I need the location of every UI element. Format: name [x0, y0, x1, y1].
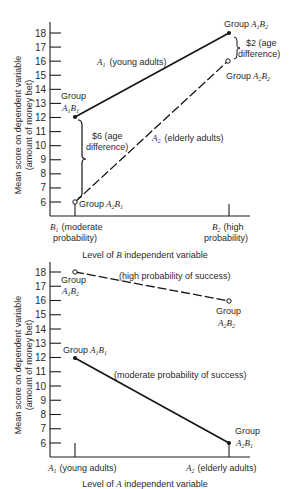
- y-tick-label: 14: [35, 84, 47, 95]
- bottom-x-axis-label: Level of A independent variable: [82, 479, 208, 489]
- label-diff6-line1: $6 (age: [92, 131, 123, 141]
- top-y-axis-label: Mean score on dependent variable (amount…: [13, 56, 34, 195]
- figure: Mean score on dependent variable (amount…: [0, 0, 291, 489]
- y-tick-label: 8: [40, 409, 46, 420]
- label-group-a1b2: Group A1B2: [224, 19, 268, 30]
- label-diff2-line1: $2 (age: [246, 38, 277, 48]
- label-cat-a2: A2(elderly adults): [185, 463, 257, 474]
- label-high-probability: (high probability of success): [119, 271, 231, 281]
- label-series-a1: A1(young adults): [96, 57, 167, 68]
- bottom-point-a1b1: [73, 356, 77, 360]
- top-point-a1b2: [227, 31, 231, 35]
- y-tick-label: 9: [40, 154, 46, 165]
- bottom-point-a2b1: [227, 441, 231, 445]
- label-b-group-a2b1-word: Group: [235, 426, 260, 436]
- label-diff6-line2: difference): [86, 142, 128, 152]
- svg-text:(amount of money bet): (amount of money bet): [24, 320, 34, 411]
- y-tick-label: 17: [35, 42, 47, 53]
- label-group-a1b1: A1B1: [61, 103, 79, 114]
- label-cat-b2-line2: probability): [204, 233, 248, 243]
- label-cat-b1: B1(moderate: [50, 222, 103, 233]
- bottom-point-a1b2: [73, 270, 77, 274]
- label-b-group-a2b1: A2B1: [235, 438, 253, 449]
- label-series-a2: A2(elderly adults): [151, 133, 224, 144]
- label-cat-a1: A1(young adults): [47, 463, 117, 474]
- y-tick-label: 12: [35, 112, 47, 123]
- top-line-a1: [75, 33, 229, 117]
- label-b-group-a1b1: Group A1B1: [63, 345, 107, 356]
- y-tick-label: 9: [40, 395, 46, 406]
- bottom-y-ticks: 6789101112131415161718: [35, 267, 61, 449]
- y-tick-label: 13: [35, 338, 47, 349]
- y-tick-label: 14: [35, 324, 47, 335]
- y-tick-label: 8: [40, 168, 46, 179]
- bottom-point-a2b2: [227, 299, 231, 303]
- label-cat-b1-line2: probability): [53, 233, 97, 243]
- y-tick-label: 13: [35, 98, 47, 109]
- top-chart: Mean score on dependent variable (amount…: [13, 19, 280, 260]
- label-b-group-a2b2: A2B2: [217, 318, 235, 329]
- label-diff2-line2: difference): [238, 49, 280, 59]
- y-tick-label: 11: [36, 366, 47, 377]
- svg-text:(amount of money bet): (amount of money bet): [24, 80, 34, 171]
- svg-text:Mean score on dependent variab: Mean score on dependent variable: [13, 296, 23, 435]
- y-tick-label: 6: [40, 197, 46, 208]
- svg-text:Mean score on dependent variab: Mean score on dependent variable: [13, 56, 23, 195]
- y-tick-label: 12: [35, 352, 47, 363]
- top-y-ticks: 6789101112131415161718: [35, 28, 61, 208]
- top-point-a1b1: [73, 115, 77, 119]
- y-tick-label: 16: [35, 295, 47, 306]
- top-brace-6: [78, 120, 86, 198]
- top-point-a2b1: [73, 200, 77, 204]
- top-x-axis-label: Level of B independent variable: [82, 250, 208, 260]
- label-b-group-a2b2-word: Group: [216, 306, 241, 316]
- y-tick-label: 7: [40, 182, 46, 193]
- bottom-y-axis-label: Mean score on dependent variable (amount…: [13, 296, 34, 435]
- label-b-group-a1b2-word: Group: [61, 275, 86, 285]
- y-tick-label: 18: [35, 28, 47, 39]
- y-tick-label: 6: [40, 438, 46, 449]
- y-tick-label: 7: [40, 423, 46, 434]
- y-tick-label: 17: [35, 281, 47, 292]
- y-tick-label: 10: [35, 381, 47, 392]
- y-tick-label: 15: [35, 70, 47, 81]
- y-tick-label: 18: [35, 267, 47, 278]
- y-tick-label: 16: [35, 56, 47, 67]
- top-point-a2b2: [226, 59, 230, 63]
- y-tick-label: 15: [35, 309, 47, 320]
- label-group-a2b2: Group A2B2: [226, 71, 270, 82]
- y-tick-label: 11: [36, 126, 47, 137]
- label-moderate-probability: (moderate probability of success): [114, 370, 247, 380]
- label-b-group-a1b2: A1B2: [61, 286, 79, 297]
- label-group-a2b1: Group A2B1: [79, 199, 123, 210]
- label-group-a1b1-word: Group: [61, 91, 86, 101]
- bottom-chart: Mean score on dependent variable (amount…: [13, 262, 260, 489]
- label-cat-b2: B2(high: [212, 222, 244, 233]
- y-tick-label: 10: [35, 140, 47, 151]
